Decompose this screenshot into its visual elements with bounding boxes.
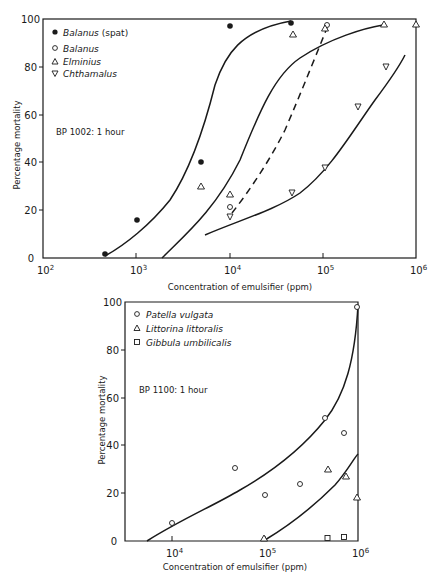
bottom-chart: 0 20 40 60 80 100 104 105 106 Concentrat…	[97, 297, 370, 572]
legend-label-balanus: Balanus	[63, 44, 99, 54]
bottom-ytick-80: 80	[106, 345, 119, 356]
bottom-xtick-1e4: 104	[166, 547, 184, 559]
legend-triangle-up-icon	[134, 325, 140, 331]
legend-label-littorina-littoralis: Littorina littoralis	[146, 324, 223, 334]
series-littorina-littoralis	[261, 466, 361, 541]
bottom-ytick-60: 60	[106, 393, 119, 404]
top-xtick-1e3: 103	[130, 264, 147, 276]
top-y-axis-label: Percentage mortality	[12, 100, 22, 189]
bottom-legend: Patella vulgata Littorina littoralis Gib…	[134, 310, 232, 348]
top-ytick-40: 40	[24, 157, 37, 168]
legend-filled-circle-icon	[52, 29, 57, 34]
series-gibbula-umbilicalis	[325, 535, 347, 541]
top-xtick-1e4: 104	[224, 264, 242, 276]
top-xtick-1e2: 102	[37, 264, 54, 276]
bottom-x-axis	[172, 536, 265, 541]
top-x-axis-label: Concentration of emulsifier (ppm)	[168, 282, 312, 292]
legend-triangle-down-icon	[52, 71, 58, 77]
legend-open-circle-icon	[53, 46, 58, 51]
bottom-ytick-40: 40	[106, 440, 119, 451]
fit-curve-littorina	[265, 454, 358, 540]
top-xtick-1e6: 106	[410, 264, 428, 276]
bottom-x-axis-label: Concentration of emulsifier (ppm)	[163, 562, 307, 572]
bottom-annotation: BP 1100: 1 hour	[139, 385, 208, 395]
top-ytick-60: 60	[24, 110, 37, 121]
bottom-ytick-0: 0	[111, 536, 117, 547]
series-chthamalus	[227, 64, 389, 220]
legend-label-gibbula-umbilicalis: Gibbula umbilicalis	[146, 338, 232, 348]
series-elminius	[198, 21, 420, 197]
bottom-y-axis-label: Percentage mortality	[97, 375, 107, 464]
fit-curve-elminius	[162, 25, 383, 258]
top-ytick-20: 20	[24, 205, 37, 216]
bottom-ytick-100: 100	[103, 297, 122, 308]
top-annotation: BP 1002: 1 hour	[56, 127, 125, 137]
fit-curve-balanus-dashed	[232, 28, 327, 213]
top-chart: 0 20 40 60 80 100 102 103 104 105 106 Co…	[12, 14, 428, 292]
top-ytick-0: 0	[28, 253, 34, 264]
legend-label-elminius: Elminius	[63, 57, 101, 67]
bottom-ytick-20: 20	[106, 488, 119, 499]
top-ytick-100: 100	[21, 14, 40, 25]
legend-triangle-up-icon	[52, 59, 58, 65]
bottom-xtick-1e5: 105	[259, 547, 276, 559]
top-legend: Balanus (spat) Balanus Elminius Chthamal…	[52, 28, 128, 79]
legend-open-circle-icon	[135, 312, 140, 317]
legend-label-chthamalus: Chthamalus	[63, 69, 117, 79]
legend-label-balanus-spat: Balanus (spat)	[63, 28, 128, 38]
figure: 0 20 40 60 80 100 102 103 104 105 106 Co…	[0, 0, 438, 583]
top-xtick-1e5: 105	[317, 264, 334, 276]
bottom-xtick-1e6: 106	[352, 547, 370, 559]
top-ytick-80: 80	[24, 62, 37, 73]
legend-label-patella-vulgata: Patella vulgata	[146, 310, 213, 320]
legend-open-square-icon	[135, 340, 140, 345]
